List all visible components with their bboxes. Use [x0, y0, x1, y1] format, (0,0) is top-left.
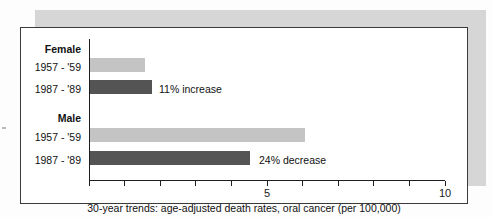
axis-tick-7 — [338, 181, 339, 186]
chart-caption: 30-year trends: age-adjusted death rates… — [21, 202, 467, 214]
annotation-male-change: 24% decrease — [259, 154, 326, 166]
bar-chart-plot-area: 5 10 Female 1957 - '59 1987 - '89 11% in… — [21, 28, 467, 203]
row-label-male-1987: 1987 - '89 — [21, 154, 81, 166]
row-label-female-1957: 1957 - '59 — [21, 61, 81, 73]
axis-tick-label-5: 5 — [264, 187, 270, 199]
bar-male-1987 — [90, 151, 250, 165]
row-label-male-1957: 1957 - '59 — [21, 131, 81, 143]
figure-root: 5 10 Female 1957 - '59 1987 - '89 11% in… — [0, 0, 493, 217]
scan-artifact — [2, 127, 6, 129]
axis-tick-label-10: 10 — [439, 187, 451, 199]
axis-tick-10 — [445, 181, 446, 186]
axis-tick-1 — [124, 181, 125, 186]
bar-male-1957 — [90, 128, 305, 142]
axis-tick-3 — [195, 181, 196, 186]
row-label-female-1987: 1987 - '89 — [21, 83, 81, 95]
axis-tick-5 — [267, 181, 268, 186]
axis-tick-0 — [89, 181, 90, 186]
axis-tick-2 — [160, 181, 161, 186]
group-header-male: Male — [21, 112, 81, 124]
bar-female-1957 — [90, 58, 145, 72]
annotation-female-change: 11% increase — [159, 83, 222, 95]
figure-panel: 5 10 Female 1957 - '59 1987 - '89 11% in… — [20, 27, 468, 204]
axis-tick-8 — [373, 181, 374, 186]
axis-tick-6 — [302, 181, 303, 186]
axis-tick-9 — [409, 181, 410, 186]
bar-female-1987 — [90, 80, 152, 94]
axis-tick-4 — [231, 181, 232, 186]
group-header-female: Female — [21, 43, 81, 55]
